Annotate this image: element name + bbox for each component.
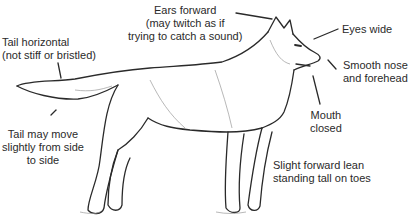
dog-eye [295,45,301,46]
label-lean-line2: standing tall on toes [273,172,371,185]
dog-outline-front-leg-2 [225,132,244,213]
label-ears-line1: Ears forward [128,4,242,17]
label-mouth: Mouth closed [310,109,342,135]
label-tail-move-line3: to side [2,154,84,167]
dog-outline-belly [148,118,262,132]
label-nose-line1: Smooth nose [343,59,408,72]
label-eyes: Eyes wide [342,23,392,36]
label-tail-move-line2: slightly from side [2,141,84,154]
label-tail: Tail horizontal (not stiff or bristled) [2,36,96,62]
dog-outline-tail-under [17,85,118,99]
label-mouth-line2: closed [310,122,342,135]
label-mouth-line1: Mouth [310,109,342,122]
label-tail-line1: Tail horizontal [2,36,96,49]
dog-outline-chest [262,70,294,128]
label-ears: Ears forward (may twitch as if trying to… [128,4,242,43]
leader-eyes [314,29,338,39]
label-nose-line2: and forehead [343,72,408,85]
label-ears-line2: (may twitch as if [128,17,242,30]
leader-mouth [313,76,320,104]
leader-tail-move [51,110,56,115]
leader-tail [58,63,61,78]
label-lean: Slight forward lean standing tall on toe… [273,159,371,185]
label-lean-line1: Slight forward lean [273,159,371,172]
dog-outline-front-leg [248,128,272,210]
dog-outline-hind-leg [88,85,148,214]
label-eyes-line1: Eyes wide [342,23,392,36]
dog-outline-hind-leg-2 [108,150,130,210]
label-ears-line3: trying to catch a sound) [128,30,242,43]
label-nose: Smooth nose and forehead [343,59,408,85]
label-tail-line2: (not stiff or bristled) [2,49,96,62]
label-tail-move: Tail may move slightly from side to side [2,128,84,167]
label-tail-move-line1: Tail may move [2,128,84,141]
leader-nose [328,60,336,69]
